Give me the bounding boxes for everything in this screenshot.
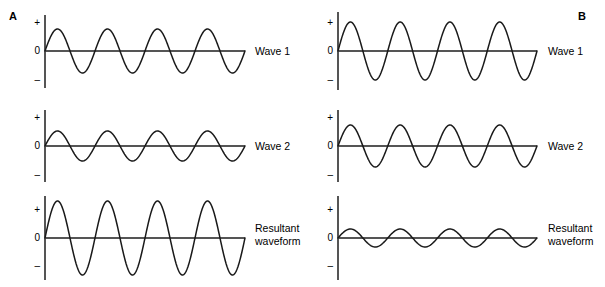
panel-a-resultant-label: Resultant waveform: [255, 222, 301, 247]
panel-a-wave-2-tick-zero: 0: [26, 141, 40, 151]
panel-b-wave-1-tick-negative: –: [319, 75, 333, 85]
panel-a-wave-1-label: Wave 1: [255, 45, 290, 58]
panel-b-wave-1-tick-zero: 0: [319, 46, 333, 56]
panel-b-wave-2-tick-positive: +: [319, 113, 333, 123]
panel-b-resultant-tick-positive: +: [319, 205, 333, 215]
panel-b-wave-2-tick-zero: 0: [319, 141, 333, 151]
panel-a-resultant-tick-zero: 0: [26, 233, 40, 243]
panel-b-resultant-tick-zero: 0: [319, 233, 333, 243]
panel-a-wave-1-tick-zero: 0: [26, 46, 40, 56]
wave-interference-figure: A+0–Wave 1+0–Wave 2+0–Resultant waveform…: [0, 0, 605, 287]
panel-letter-a: A: [9, 11, 17, 22]
panel-b-wave-2-tick-negative: –: [319, 170, 333, 180]
panel-b-resultant-label: Resultant waveform: [548, 222, 594, 247]
panel-letter-b: B: [578, 11, 586, 22]
panel-a-resultant-tick-positive: +: [26, 205, 40, 215]
panel-a-wave-1-tick-negative: –: [26, 75, 40, 85]
panel-b-wave-1-tick-positive: +: [319, 18, 333, 28]
panel-b-resultant-tick-negative: –: [319, 261, 333, 271]
panel-b-wave-2-label: Wave 2: [548, 140, 583, 153]
panel-b-wave-1-label: Wave 1: [548, 45, 583, 58]
panel-a-resultant-tick-negative: –: [26, 261, 40, 271]
panel-a-wave-2-label: Wave 2: [255, 140, 290, 153]
waveform-canvas: [0, 0, 605, 287]
panel-a-wave-2-tick-negative: –: [26, 170, 40, 180]
panel-a-wave-1-tick-positive: +: [26, 18, 40, 28]
panel-a-wave-2-tick-positive: +: [26, 113, 40, 123]
